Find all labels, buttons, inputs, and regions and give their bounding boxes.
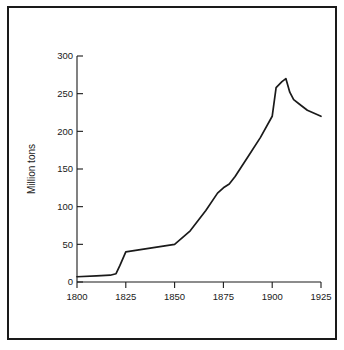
x-tick-label-1800: 1800 [66, 291, 87, 302]
y-axis-title: Million tons [26, 144, 37, 194]
y-tick-label-300: 300 [57, 50, 73, 61]
line-chart: 050100150200250300 180018251850187519001… [9, 8, 339, 342]
y-axis: 050100150200250300 [57, 50, 83, 287]
y-tick-label-150: 150 [57, 163, 73, 174]
chart-plot-area: 050100150200250300 180018251850187519001… [9, 8, 339, 342]
x-tick-label-1875: 1875 [213, 291, 234, 302]
y-tick-label-0: 0 [68, 276, 73, 287]
y-tick-label-200: 200 [57, 126, 73, 137]
x-tick-label-1850: 1850 [164, 291, 185, 302]
data-series-line [77, 79, 321, 277]
x-axis-ticks [77, 282, 321, 288]
x-axis-tick-labels: 180018251850187519001925 [66, 291, 331, 302]
y-tick-label-250: 250 [57, 88, 73, 99]
figure-border: 050100150200250300 180018251850187519001… [7, 6, 337, 340]
y-tick-label-100: 100 [57, 201, 73, 212]
x-tick-label-1900: 1900 [262, 291, 283, 302]
y-axis-ticks [77, 56, 83, 282]
y-tick-label-50: 50 [62, 239, 73, 250]
y-axis-tick-labels: 050100150200250300 [57, 50, 73, 287]
x-axis: 180018251850187519001925 [66, 282, 331, 302]
x-tick-label-1925: 1925 [310, 291, 331, 302]
x-tick-label-1825: 1825 [115, 291, 136, 302]
